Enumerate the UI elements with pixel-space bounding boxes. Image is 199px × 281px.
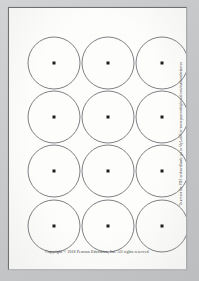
circle-cell	[82, 200, 135, 253]
circle-center-dot-icon	[53, 225, 55, 227]
circle-center-dot-icon	[53, 170, 55, 172]
circle-cell	[82, 145, 135, 198]
copyright-notice: Copyright © 2018 Pearson Education, Inc.…	[9, 250, 186, 254]
circle-center-dot-icon	[161, 116, 163, 118]
circle-center-dot-icon	[161, 225, 163, 227]
circle-center-dot-icon	[107, 170, 109, 172]
circle-cell	[82, 91, 135, 144]
side-note-text: To access the PDF or downloads, go to My…	[179, 62, 183, 206]
circle-cell	[28, 91, 81, 144]
circle-cell	[28, 37, 81, 90]
circle-grid	[9, 8, 186, 269]
worksheet-page: Copyright © 2018 Pearson Education, Inc.…	[8, 7, 187, 270]
circle-cell	[82, 37, 135, 90]
circle-center-dot-icon	[53, 62, 55, 64]
circle-center-dot-icon	[161, 62, 163, 64]
circle-cell	[28, 145, 81, 198]
circle-center-dot-icon	[107, 62, 109, 64]
circle-center-dot-icon	[53, 116, 55, 118]
circle-center-dot-icon	[107, 225, 109, 227]
side-note: To access the PDF or downloads, go to My…	[176, 18, 185, 250]
circle-cell	[28, 200, 81, 253]
circle-center-dot-icon	[107, 116, 109, 118]
circle-center-dot-icon	[161, 170, 163, 172]
